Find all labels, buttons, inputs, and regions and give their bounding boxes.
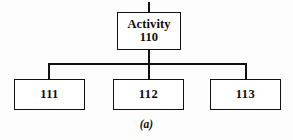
node-112-number: 112 — [139, 88, 158, 101]
connector-horizontal-bus — [48, 63, 246, 65]
node-activity-110-number: 110 — [140, 31, 158, 44]
node-112: 112 — [113, 79, 184, 110]
node-111: 111 — [14, 79, 85, 110]
connector-drop-to-child-113 — [245, 63, 247, 80]
activity-breakdown-diagram: Activity 110 111 112 113 (a) — [0, 0, 293, 140]
figure-caption: (a) — [0, 118, 293, 130]
node-113-number: 113 — [236, 88, 255, 101]
node-activity-110: Activity 110 — [117, 12, 181, 50]
connector-drop-to-child-111 — [48, 63, 50, 80]
node-111-number: 111 — [40, 88, 59, 101]
node-113: 113 — [210, 79, 281, 110]
